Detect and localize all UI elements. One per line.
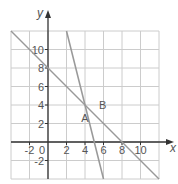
x-tick-label: -2 <box>25 144 35 156</box>
y-tick-label: -2 <box>34 155 44 167</box>
x-tick-label: 10 <box>134 144 146 156</box>
x-tick-label: 8 <box>119 144 125 156</box>
x-tick-label: 4 <box>82 144 88 156</box>
x-tick-label: 6 <box>100 144 106 156</box>
x-tick-label: 2 <box>63 144 69 156</box>
line-label-a: A <box>81 112 89 124</box>
y-axis-arrow-icon <box>45 10 51 18</box>
line-chart: -20246810-2246810 AB x y <box>0 0 178 184</box>
y-tick-label: 4 <box>38 99 44 111</box>
y-axis-label: y <box>36 6 44 20</box>
y-tick-label: 6 <box>38 81 44 93</box>
x-axis-label: x <box>169 141 177 155</box>
line-label-b: B <box>99 99 106 111</box>
y-tick-label: 2 <box>38 118 44 130</box>
